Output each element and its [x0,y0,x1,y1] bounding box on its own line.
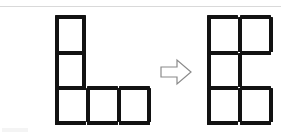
right-matchstick-R-h7 [207,121,238,125]
right-matchstick-R-v2 [238,17,242,52]
right-matchstick-R-v7 [238,88,242,122]
right-matchstick-R-h3 [207,51,238,55]
right-matchstick-R-h6 [240,86,271,90]
right-matchstick-R-v8 [269,88,273,122]
right-matchstick-R-v3 [269,17,273,52]
right-matchstick-R-v4 [207,53,211,87]
right-matchstick-R-v5 [238,53,242,87]
right-matchstick-R-v1 [207,17,211,52]
right-matchstick-R-h4 [240,51,271,55]
matchstick-figure-right [0,0,281,138]
right-matchstick-R-h5 [207,86,238,90]
right-matchstick-R-h8 [240,121,271,125]
right-matchstick-R-v6 [207,88,211,122]
corner-artifact [2,128,28,132]
right-matchstick-R-h1 [207,15,238,19]
diagram-canvas [0,0,281,138]
right-matchstick-R-h2 [240,15,271,19]
